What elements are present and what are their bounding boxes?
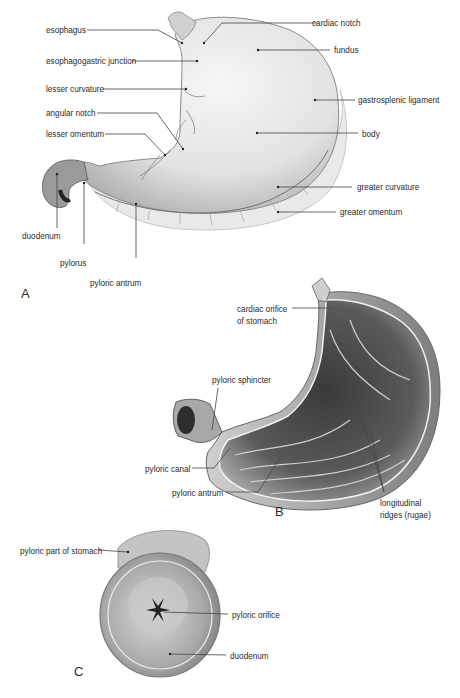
panel-letter-c: C xyxy=(74,664,83,679)
label-duodenum-a: duodenum xyxy=(22,230,61,241)
label-lesser-curvature: lesser curvature xyxy=(46,83,104,94)
label-cardiac-orifice-line2: of stomach xyxy=(237,315,277,326)
panel-letter-a: A xyxy=(21,286,30,301)
label-cardiac-orifice-line1: cardiac orifice xyxy=(237,303,287,314)
label-body: body xyxy=(362,128,380,139)
label-gastrosplenic-ligament: gastrosplenic ligament xyxy=(358,94,439,105)
label-angular-notch: angular notch xyxy=(46,107,96,118)
stomach-internal-view xyxy=(173,278,440,510)
label-lesser-omentum: lesser omentum xyxy=(46,128,104,139)
label-pyloric-antrum-b: pyloric antrum xyxy=(172,487,223,498)
label-esophagogastric-junction: esophagogastric junction xyxy=(46,55,136,66)
label-fundus: fundus xyxy=(334,44,359,55)
label-pylorus: pylorus xyxy=(60,257,86,268)
label-cardiac-notch: cardiac notch xyxy=(312,17,361,28)
label-pyloric-antrum-a: pyloric antrum xyxy=(90,277,141,288)
label-duodenum-c: duodenum xyxy=(230,650,269,661)
label-longitudinal-ridges-line1: longitudinal xyxy=(380,497,421,508)
label-longitudinal-ridges-line2: ridges (rugae) xyxy=(380,509,431,520)
panel-letter-b: B xyxy=(275,504,284,519)
label-esophagus: esophagus xyxy=(46,24,86,35)
label-pyloric-sphincter: pyloric sphincter xyxy=(212,374,271,385)
label-pyloric-orifice: pyloric orifice xyxy=(232,609,280,620)
label-greater-curvature: greater curvature xyxy=(357,181,419,192)
pyloric-orifice-view xyxy=(100,531,220,677)
label-pyloric-part-of-stomach: pyloric part of stomach xyxy=(20,545,102,556)
stomach-external-view xyxy=(42,12,346,230)
stomach-anatomy-figure: esophagus esophagogastric junction lesse… xyxy=(0,0,460,698)
label-pyloric-canal: pyloric canal xyxy=(145,463,190,474)
label-greater-omentum: greater omentum xyxy=(340,206,402,217)
